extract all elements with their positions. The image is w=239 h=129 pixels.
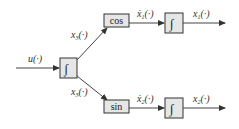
signal-label-x3-lower: x3(·): [70, 86, 88, 98]
signal-label-x1-dot: ẋ1(·): [136, 8, 154, 20]
signal-label-x2-dot: ẋ2(·): [136, 93, 154, 105]
bottom-integrator-block: ∫: [165, 98, 183, 118]
signal-label-x2: x2(·): [192, 93, 210, 105]
input-label-u: u(·): [28, 53, 43, 65]
signal-label-x3-upper: x3(·): [70, 29, 88, 41]
svg-text:cos: cos: [110, 15, 123, 26]
sin-block: sin: [104, 100, 129, 113]
svg-text:sin: sin: [111, 101, 123, 112]
top-integrator-block: ∫: [165, 13, 183, 33]
block-diagram: u(·) ∫ x3(·) x3(·) cos sin ẋ1(·) ẋ2(·) ∫…: [0, 0, 239, 129]
signal-label-x1: x1(·): [192, 8, 210, 20]
cos-block: cos: [104, 14, 129, 27]
main-integrator-block: ∫: [60, 58, 77, 78]
